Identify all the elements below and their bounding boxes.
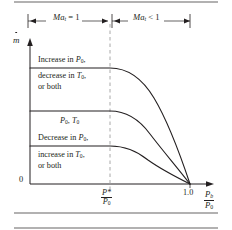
- x-tick-critical-denominator-sub: 0: [108, 201, 111, 207]
- annotation-upper-line3: or both: [38, 83, 61, 92]
- region-label-choked-sub: t: [64, 16, 66, 22]
- annotation-lower-line2-post: ,: [83, 150, 85, 159]
- annotation-lower-line1: Decrease in P0,: [38, 134, 88, 143]
- x-tick-critical-numerator: P*: [101, 189, 112, 197]
- annotation-lower-line2: increase in T0,: [38, 151, 85, 160]
- x-axis-label-denominator-sub: 0: [210, 205, 213, 211]
- origin-label: 0: [19, 176, 23, 185]
- annotation-baseline-var2-sub: 0: [76, 119, 79, 125]
- annotation-lower-line3: or both: [38, 162, 61, 171]
- y-axis-label-text: m: [13, 35, 20, 45]
- x-tick-one: 1.0: [183, 189, 193, 198]
- chart-canvas: [0, 0, 232, 230]
- region-label-subsonic-text: Ma: [133, 12, 144, 22]
- annotation-upper-line2-pre: decrease in: [38, 71, 77, 80]
- x-tick-critical-ratio: P* P0: [101, 189, 112, 207]
- annotation-upper-line1-post: ,: [84, 55, 86, 64]
- annotation-lower-line1-pre: Decrease in: [38, 133, 78, 142]
- region-label-subsonic-sub: t: [144, 16, 146, 22]
- overdot-icon: [15, 32, 17, 34]
- mass-flow-rate-chart: Mat = 1 Mat < 1 m 0 Increase in P0, decr…: [0, 0, 232, 230]
- region-label-choked-rel: = 1: [68, 12, 79, 22]
- annotation-lower-line2-pre: increase in: [38, 150, 75, 159]
- region-label-subsonic-rel: < 1: [148, 12, 159, 22]
- region-label-subsonic: Mat < 1: [133, 13, 160, 22]
- annotation-baseline: P0, T0: [60, 117, 79, 126]
- annotation-upper-line2-post: ,: [84, 71, 86, 80]
- x-axis-label: Pb P0: [204, 190, 214, 211]
- region-label-choked: Mat = 1: [53, 13, 80, 22]
- annotation-lower-line1-post: ,: [86, 133, 88, 142]
- region-label-choked-text: Ma: [53, 12, 64, 22]
- y-axis-label: m: [13, 36, 20, 45]
- annotation-upper-line1-pre: Increase in: [38, 55, 76, 64]
- annotation-upper-line2: decrease in T0,: [38, 72, 86, 81]
- bottom-border-rule: [14, 213, 218, 228]
- x-axis-label-numerator-sub: b: [210, 193, 213, 199]
- annotation-upper-line1: Increase in P0,: [38, 56, 86, 65]
